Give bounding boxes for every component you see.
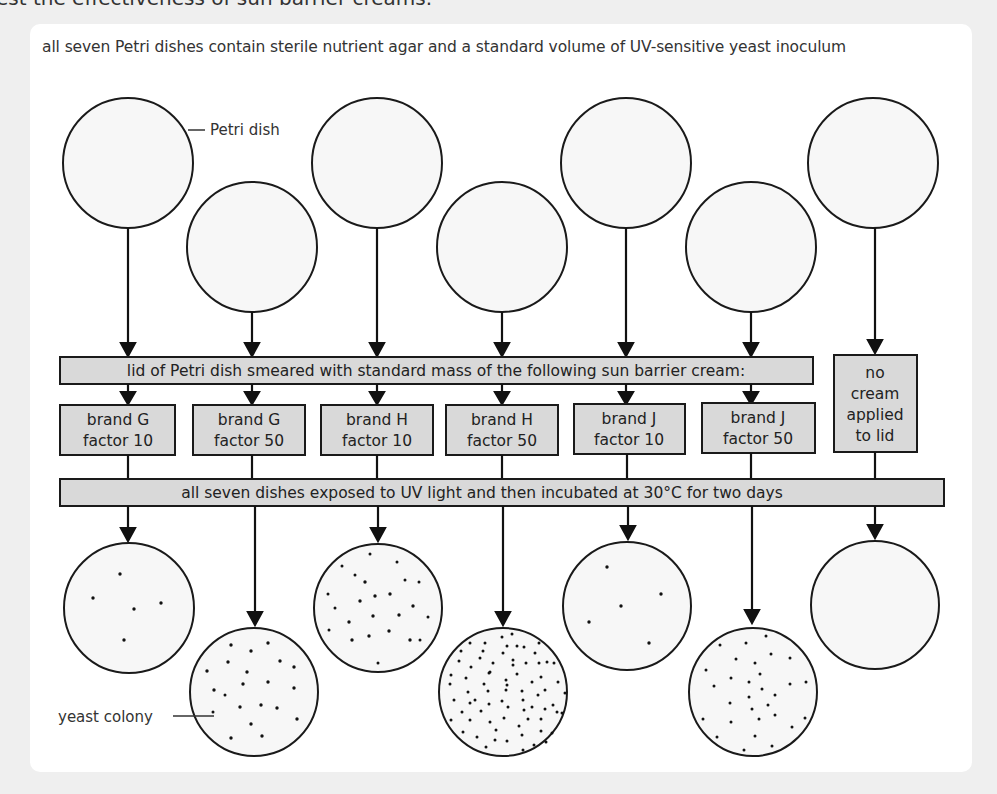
- petri-dish-7: [808, 98, 938, 228]
- yeast-colony-label: yeast colony: [58, 708, 153, 726]
- treatment-7-line2: cream: [851, 385, 900, 403]
- connectors-brand-to-exposure: [128, 452, 875, 479]
- treatment-6-line1: brand J: [731, 409, 786, 427]
- arrows-exposure-to-results: [121, 506, 882, 625]
- treatment-3-line2: factor 10: [342, 432, 412, 450]
- petri-dish-1: [63, 98, 193, 228]
- treatment-2-line2: factor 50: [214, 432, 284, 450]
- step-uv-exposure-text: all seven dishes exposed to UV light and…: [181, 484, 783, 502]
- treatment-3-line1: brand H: [346, 411, 408, 429]
- treatment-7-line1: no: [865, 364, 884, 382]
- treatment-5-line2: factor 10: [594, 431, 664, 449]
- petri-dish-3: [312, 98, 442, 228]
- treatment-1-line2: factor 10: [83, 432, 153, 450]
- treatment-7-line3: applied: [846, 406, 903, 424]
- treatment-4-line2: factor 50: [467, 432, 537, 450]
- petri-dish-6: [686, 182, 816, 312]
- arrows-lid-to-brand: [121, 384, 758, 404]
- result-dish-2: [190, 628, 318, 756]
- treatment-2-line1: brand G: [218, 411, 280, 429]
- result-dish-1: [64, 543, 194, 673]
- treatment-7-line4: to lid: [856, 427, 895, 445]
- result-dish-6: [689, 628, 817, 756]
- experiment-diagram: Petri dish lid of Petri dish smeared wit…: [0, 0, 997, 794]
- result-dish-3: [314, 544, 442, 672]
- step-lid-smeared-text: lid of Petri dish smeared with standard …: [127, 362, 745, 380]
- treatment-5-line1: brand J: [602, 410, 657, 428]
- petri-dish-2: [187, 182, 317, 312]
- result-dish-7: [811, 541, 939, 669]
- result-dish-5: [563, 542, 691, 670]
- treatment-4-line1: brand H: [471, 411, 533, 429]
- petri-dish-label: Petri dish: [210, 121, 280, 139]
- result-dish-4: [439, 628, 567, 756]
- treatment-6-line2: factor 50: [723, 430, 793, 448]
- petri-dish-4: [437, 182, 567, 312]
- result-dishes: [64, 541, 939, 756]
- petri-dish-5: [561, 98, 691, 228]
- treatment-1-line1: brand G: [87, 411, 149, 429]
